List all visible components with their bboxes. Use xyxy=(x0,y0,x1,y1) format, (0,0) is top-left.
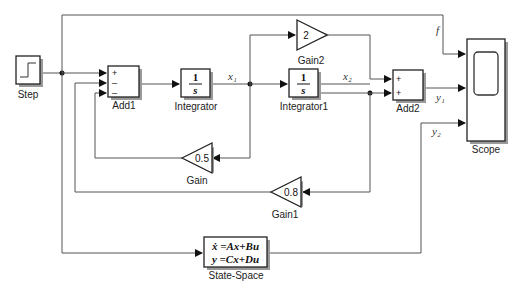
gain1-value: 0.8 xyxy=(284,187,298,198)
signal-f-label: f xyxy=(436,24,441,36)
state-space-equation-2: y =Cx+Du xyxy=(210,253,259,265)
integrator-block[interactable]: 1 s Integrator xyxy=(175,69,218,112)
integrator1-label: Integrator1 xyxy=(280,101,329,112)
signal-y2-label: y₂ xyxy=(431,125,441,137)
gain-label: Gain xyxy=(186,175,207,186)
add2-sign-1: + xyxy=(396,74,401,84)
state-space-block[interactable]: ẋ =Ax+Bu y =Cx+Du State-Space xyxy=(204,237,270,281)
wire-gain2-to-add2[interactable] xyxy=(327,35,391,79)
add1-sign-2: – xyxy=(112,78,117,88)
integrator-label: Integrator xyxy=(175,101,218,112)
add1-sign-1: + xyxy=(112,68,117,78)
signal-x2-label: x₂ xyxy=(342,70,352,82)
wire-x1-to-gain2[interactable] xyxy=(250,35,295,84)
wire-x1-to-gain[interactable] xyxy=(213,84,250,158)
integrator-numerator: 1 xyxy=(193,71,199,83)
gain1-block[interactable]: 0.8 Gain1 xyxy=(271,177,303,220)
state-space-label: State-Space xyxy=(208,270,263,281)
add1-block[interactable]: + – – Add1 xyxy=(108,66,142,111)
signal-x1-label: x₁ xyxy=(227,70,237,82)
gain1-label: Gain1 xyxy=(272,209,299,220)
add1-label: Add1 xyxy=(112,100,136,111)
wire-gain1-to-add1[interactable] xyxy=(75,83,271,192)
wire-gain-to-add1[interactable] xyxy=(95,93,182,158)
integrator1-block[interactable]: 1 s Integrator1 xyxy=(280,69,329,112)
wire-f-to-scope[interactable] xyxy=(62,15,465,73)
integrator1-denominator: s xyxy=(300,84,305,96)
step-label: Step xyxy=(18,89,39,100)
add2-sign-2: + xyxy=(396,88,401,98)
add2-label: Add2 xyxy=(396,103,420,114)
gain2-value: 2 xyxy=(303,30,309,41)
gain-value: 0.5 xyxy=(195,153,209,164)
simulink-diagram: Step + – – Add1 1 s Integrator x₁ 1 s In… xyxy=(0,0,518,295)
gain2-label: Gain2 xyxy=(298,55,325,66)
scope-block[interactable]: Scope xyxy=(467,39,508,155)
integrator1-numerator: 1 xyxy=(301,71,307,83)
integrator-denominator: s xyxy=(192,84,197,96)
gain-block[interactable]: 0.5 Gain xyxy=(182,143,214,186)
state-space-equation-1: ẋ =Ax+Bu xyxy=(211,240,259,252)
add2-block[interactable]: + + Add2 xyxy=(393,70,426,114)
step-block[interactable]: Step xyxy=(16,56,43,100)
gain2-block[interactable]: 2 Gain2 xyxy=(297,20,330,66)
add1-sign-3: – xyxy=(112,88,117,98)
scope-label: Scope xyxy=(472,144,501,155)
signal-y1-label: y₁ xyxy=(435,91,445,103)
scope-screen-icon xyxy=(474,52,498,95)
